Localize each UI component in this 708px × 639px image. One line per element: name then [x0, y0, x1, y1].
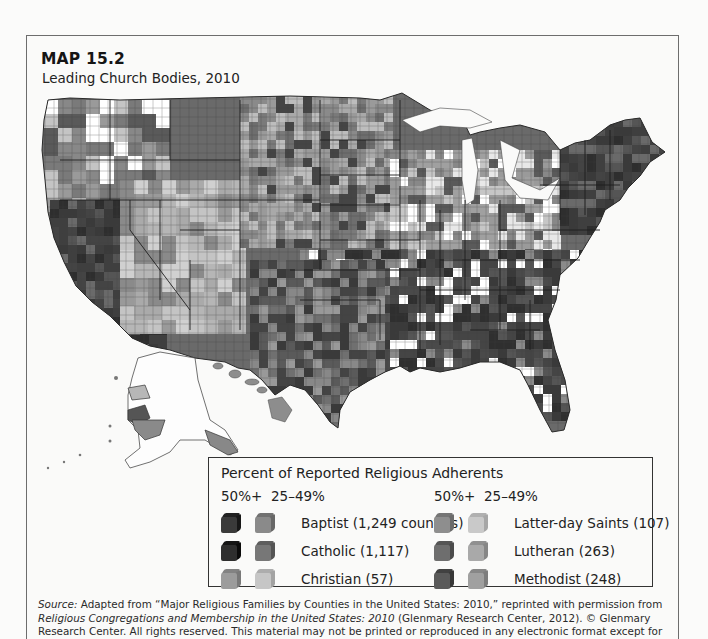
swatch-50-plus-icon [434, 513, 454, 533]
legend-item: Catholic (1,117) [221, 540, 409, 562]
legend-item: Latter-day Saints (107) [434, 512, 669, 534]
legend-header-high-col1: 50%+ [221, 488, 262, 504]
legend-title: Percent of Reported Religious Adherents [221, 465, 503, 481]
legend-item-label: Catholic (1,117) [301, 543, 409, 559]
legend-item-label: Methodist (248) [514, 571, 621, 587]
legend-box: Percent of Reported Religious Adherents … [208, 457, 653, 587]
swatch-50-plus-icon [221, 513, 241, 533]
swatch-25-49-icon [255, 569, 275, 589]
swatch-50-plus-icon [434, 541, 454, 561]
swatch-50-plus-icon [434, 569, 454, 589]
legend-item-label: Christian (57) [301, 571, 393, 587]
swatch-25-49-icon [468, 569, 488, 589]
source-caption: Source: Adapted from “Major Religious Fa… [38, 598, 678, 639]
legend-header-mid-col2: 25–49% [484, 488, 538, 504]
alaska-inset [125, 352, 238, 468]
source-prefix: Source: [38, 598, 77, 610]
legend-item: Christian (57) [221, 568, 393, 590]
legend-item: Methodist (248) [434, 568, 621, 590]
legend-header-high-col2: 50%+ [434, 488, 475, 504]
source-publication-title: Religious Congregations and Membership i… [38, 612, 395, 624]
swatch-25-49-icon [468, 513, 488, 533]
legend-item-label: Latter-day Saints (107) [514, 515, 669, 531]
aleutian-islands [47, 376, 118, 469]
legend-header-mid-col1: 25–49% [271, 488, 325, 504]
swatch-50-plus-icon [221, 541, 241, 561]
swatch-25-49-icon [255, 513, 275, 533]
legend-item: Lutheran (263) [434, 540, 615, 562]
swatch-25-49-icon [255, 541, 275, 561]
swatch-25-49-icon [468, 541, 488, 561]
swatch-50-plus-icon [221, 569, 241, 589]
legend-item: Baptist (1,249 counties) [221, 512, 463, 534]
source-text-1: Adapted from “Major Religious Families b… [77, 598, 662, 610]
legend-item-label: Lutheran (263) [514, 543, 615, 559]
